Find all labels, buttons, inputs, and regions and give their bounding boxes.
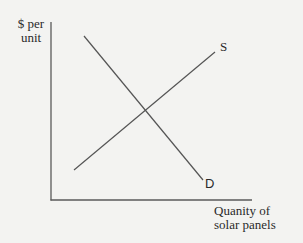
y-axis-label-line2: unit (14, 31, 48, 45)
demand-curve-label: D (205, 177, 214, 190)
supply-curve (74, 52, 215, 170)
supply-curve-label: S (220, 40, 227, 53)
x-axis-label: Quanity of solar panels (214, 204, 276, 232)
demand-curve (84, 36, 203, 180)
y-axis-label-line1: $ per (14, 17, 48, 31)
y-axis-label: $ per unit (14, 17, 48, 45)
x-axis-label-line1: Quanity of (214, 204, 276, 218)
x-axis-label-line2: solar panels (214, 218, 276, 232)
